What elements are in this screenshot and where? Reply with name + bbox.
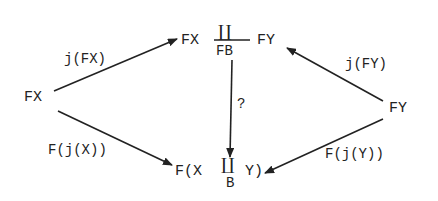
coproduct-icon: ∐ [221,156,235,173]
commutative-diagram: FX ∐ FB FY FX FY F(X ∐ B Y) j(FX) F(j(X)… [0,0,438,201]
edge-label-question: ? [237,97,245,111]
node-bottom-prefix: F(X [175,164,202,179]
node-bottom-subscript: B [226,176,234,190]
node-bottom-suffix: Y) [245,164,263,179]
edge-label-f-j-y: F(j(Y)) [325,147,384,161]
arrow-top-to-bottom [230,60,232,157]
edge-label-j-fy: j(FY) [345,57,387,71]
node-top-fy: FY [257,33,275,48]
edge-label-j-fx: j(FX) [64,52,106,66]
node-left-fx: FX [24,90,42,105]
coproduct-icon: ∐ [218,23,232,40]
node-top-subscript: FB [216,44,233,58]
edge-label-f-j-x: F(j(X)) [48,143,107,157]
node-top-fx: FX [181,33,199,48]
node-right-fy: FY [389,101,407,116]
